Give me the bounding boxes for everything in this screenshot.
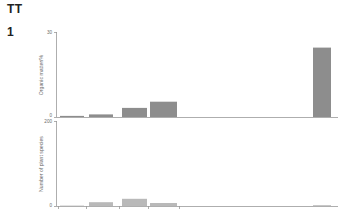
bottom-panel-ytick-label-max: 200 xyxy=(44,119,52,124)
top-panel-ytick-label-max: 30 xyxy=(47,30,53,35)
panel-plant-species: 200 0 Number of plant species xyxy=(38,119,338,209)
bar-top-1 xyxy=(60,116,84,117)
chart-stage: 30 0 Organic matter/% 200 0 Number of pl… xyxy=(0,0,339,218)
top-panel-y-axis-title: Organic matter/% xyxy=(38,54,44,95)
bar-bottom-7 xyxy=(313,205,331,206)
stacked-bar-panels-svg: 30 0 Organic matter/% 200 0 Number of pl… xyxy=(0,0,339,218)
bar-bottom-3 xyxy=(122,199,147,206)
bar-bottom-2 xyxy=(89,202,113,206)
bar-bottom-4 xyxy=(150,203,177,206)
bar-top-3 xyxy=(122,108,147,117)
bar-top-2 xyxy=(89,114,113,117)
bottom-panel-y-axis-title: Number of plant species xyxy=(38,136,44,192)
bar-top-7 xyxy=(313,48,331,117)
bar-top-4 xyxy=(150,102,177,117)
bottom-panel-ytick-label-min: 0 xyxy=(49,203,52,208)
panel-organic-matter: 30 0 Organic matter/% xyxy=(38,30,338,118)
top-panel-ytick-label-min: 0 xyxy=(49,113,52,118)
